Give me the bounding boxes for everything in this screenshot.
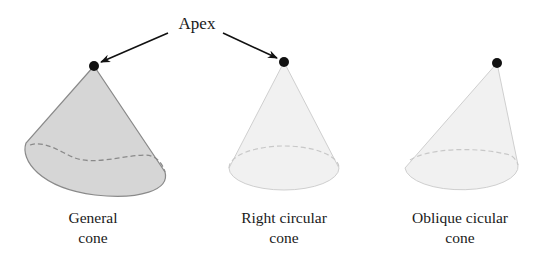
caption-oblique-circular-cone: Oblique cicular cone <box>380 208 540 248</box>
oblique-cone-body <box>405 63 518 190</box>
caption-oblique-line1: Oblique cicular <box>380 208 540 228</box>
caption-general-line1: General <box>45 208 141 228</box>
caption-general-cone: General cone <box>45 208 141 248</box>
right-circular-cone <box>229 57 339 190</box>
general-cone <box>25 61 166 196</box>
oblique-circular-cone <box>405 58 518 190</box>
arrow-to-general-apex <box>101 33 168 62</box>
arrow-to-right-apex <box>223 33 277 58</box>
caption-oblique-line2: cone <box>380 228 540 248</box>
general-cone-apex-dot <box>89 61 99 71</box>
caption-general-line2: cone <box>45 228 141 248</box>
right-cone-body <box>229 62 339 190</box>
right-cone-apex-dot <box>279 57 289 67</box>
apex-label: Apex <box>168 14 226 34</box>
caption-right-line1: Right circular <box>216 208 352 228</box>
oblique-cone-apex-dot <box>492 58 502 68</box>
caption-right-circular-cone: Right circular cone <box>216 208 352 248</box>
caption-right-line2: cone <box>216 228 352 248</box>
general-cone-body <box>25 66 166 196</box>
